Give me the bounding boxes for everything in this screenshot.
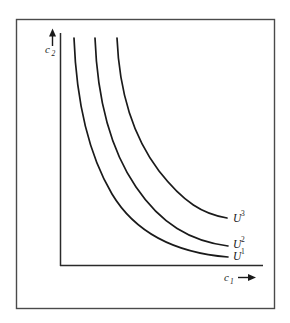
- arrow-up-icon: [49, 29, 56, 47]
- x-axis-label-base: c: [224, 271, 229, 283]
- curve-U2: [95, 38, 228, 246]
- y-axis-label-base: c: [45, 43, 50, 55]
- figure-container: c 2 c 1 U 3 U 2 U 1: [0, 0, 290, 323]
- x-axis-label: c 1: [224, 271, 234, 286]
- curve-U3: [117, 38, 227, 218]
- indifference-curves-figure: c 2 c 1 U 3 U 2 U 1: [0, 0, 290, 323]
- curve-label-U2-superscript: 2: [241, 235, 245, 244]
- x-axis-label-subscript: 1: [230, 277, 234, 286]
- curve-label-U3: U 3: [233, 209, 245, 224]
- y-axis-label-subscript: 2: [52, 49, 56, 58]
- curve-label-U1: U 1: [233, 247, 245, 262]
- arrow-right-icon: [238, 274, 256, 281]
- curve-label-U3-superscript: 3: [241, 209, 245, 218]
- curve-label-U1-superscript: 1: [241, 247, 245, 256]
- y-axis-label: c 2: [45, 43, 56, 58]
